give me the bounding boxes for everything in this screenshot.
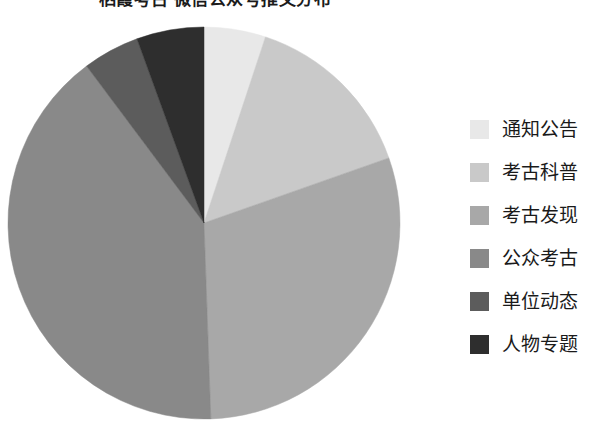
legend-color-swatch [470,335,489,354]
legend-item: 考古发现 [470,194,602,237]
legend-item: 公众考古 [470,237,602,280]
legend-item-label: 公众考古 [502,249,578,268]
legend-color-swatch [470,292,489,311]
chart-legend: 通知公告考古科普考古发现公众考古单位动态人物专题 [470,108,602,366]
legend-item: 人物专题 [470,323,602,366]
pie-slice-group [8,27,400,419]
legend-item-label: 人物专题 [502,335,578,354]
legend-item-label: 考古科普 [502,163,578,182]
legend-color-swatch [470,206,489,225]
pie-chart-area [7,26,401,420]
legend-item: 通知公告 [470,108,602,151]
legend-item: 考古科普 [470,151,602,194]
pie-chart-figure: 栖霞考古 微信公众号推文分布 通知公告考古科普考古发现公众考古单位动态人物专题 [0,0,602,440]
legend-item-label: 通知公告 [502,120,578,139]
legend-color-swatch [470,163,489,182]
pie-svg [7,26,401,420]
legend-item-label: 单位动态 [502,292,578,311]
legend-color-swatch [470,249,489,268]
chart-title: 栖霞考古 微信公众号推文分布 [0,0,430,13]
legend-item-label: 考古发现 [502,206,578,225]
legend-item: 单位动态 [470,280,602,323]
legend-color-swatch [470,120,489,139]
